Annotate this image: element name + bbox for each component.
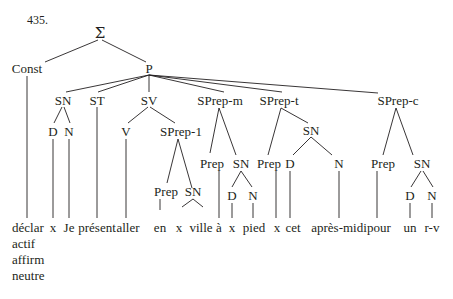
- leaf: déclar: [12, 220, 44, 235]
- node-sprep-c-sn-n: N: [427, 188, 437, 203]
- node-sprep-m-prep: Prep: [200, 156, 224, 171]
- node-sprep-t-sn: SN: [303, 123, 320, 138]
- node-sn-n: N: [64, 124, 74, 139]
- leaf: aller: [116, 220, 140, 235]
- node-sprep-c-sn: SN: [414, 156, 431, 171]
- leaf: après-midi: [311, 220, 367, 235]
- leaf: un: [404, 220, 418, 235]
- node-sprep-c: SPrep-c: [377, 93, 418, 108]
- node-sprep-t: SPrep-t: [260, 93, 299, 108]
- node-sprep-c-prep: Prep: [371, 156, 395, 171]
- leaf: pour: [367, 220, 392, 235]
- node-sn: SN: [55, 93, 72, 108]
- leaf: x: [274, 220, 281, 235]
- leaf: x: [229, 220, 236, 235]
- node-sv-v: V: [121, 124, 131, 139]
- const-feature: neutre: [12, 268, 45, 283]
- leaf-row: déclar x Je présent aller en x ville à x…: [12, 220, 440, 235]
- node-const: Const: [12, 61, 43, 76]
- node-sprep-1-prep: Prep: [154, 184, 178, 199]
- leaf: r-v: [425, 220, 440, 235]
- node-sprep-1: SPrep-1: [160, 124, 202, 139]
- node-sprep-m: SPrep-m: [197, 93, 243, 108]
- node-sn-d: D: [48, 124, 57, 139]
- node-sprep-t-sn-n: N: [334, 156, 344, 171]
- node-sprep-1-sn: SN: [185, 184, 202, 199]
- leaf: ville: [189, 220, 212, 235]
- root-sigma: Σ: [95, 24, 106, 42]
- node-sprep-c-sn-d: D: [405, 188, 414, 203]
- leaf: à: [216, 220, 222, 235]
- leaf: Je: [64, 220, 75, 235]
- node-sprep-m-sn-n: N: [248, 188, 258, 203]
- node-sprep-m-sn-d: D: [227, 188, 236, 203]
- node-sv: SV: [141, 93, 158, 108]
- leaf: x: [176, 220, 183, 235]
- leaf: présent: [78, 220, 116, 235]
- leaf: pied: [243, 220, 266, 235]
- node-sprep-m-sn: SN: [233, 156, 250, 171]
- leaf: en: [154, 220, 167, 235]
- node-sprep-t-prep: Prep: [257, 156, 281, 171]
- node-st: ST: [89, 93, 104, 108]
- node-p: P: [145, 61, 152, 76]
- syntax-tree: 435. Σ: [0, 0, 453, 299]
- const-features: actif affirm neutre: [12, 236, 45, 283]
- const-feature: actif: [12, 236, 36, 251]
- example-number: 435.: [27, 13, 48, 27]
- leaf: x: [50, 220, 57, 235]
- node-sprep-t-sn-d: D: [285, 156, 294, 171]
- const-feature: affirm: [12, 252, 44, 267]
- leaf: cet: [285, 220, 301, 235]
